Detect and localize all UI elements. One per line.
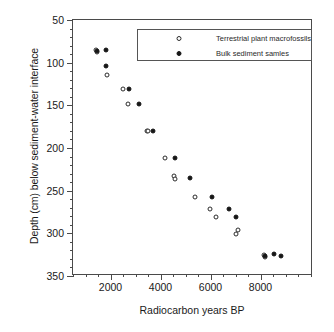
- y-tick-minor: [70, 29, 73, 30]
- legend-entry-bulk: Bulk sediment samles: [138, 46, 311, 61]
- data-point: [103, 64, 108, 69]
- data-point: [234, 232, 239, 237]
- y-tick-label: 350: [46, 270, 64, 282]
- y-tick-minor: [70, 139, 73, 140]
- data-point: [125, 102, 130, 107]
- x-tick-minor: [186, 274, 187, 277]
- data-point: [126, 87, 131, 92]
- y-tick-label: 200: [46, 142, 64, 154]
- x-tick-minor: [311, 274, 312, 277]
- x-tick-minor: [98, 274, 99, 277]
- open-circle-marker-icon: [177, 36, 182, 41]
- y-tick-minor: [70, 157, 73, 158]
- y-tick-minor: [70, 122, 73, 123]
- x-tick-minor: [173, 274, 174, 277]
- data-point: [137, 102, 142, 107]
- y-tick-major: [67, 233, 73, 234]
- x-tick-minor: [286, 274, 287, 277]
- data-point: [103, 47, 108, 52]
- x-tick-label: 8000: [249, 281, 272, 293]
- x-tick-minor: [236, 274, 237, 277]
- x-tick-label: 6000: [199, 281, 222, 293]
- y-tick-minor: [70, 131, 73, 132]
- y-axis-title: Depth (cm) below sediment-water interfac…: [28, 16, 40, 276]
- x-axis-title: Radiocarbon years BP: [72, 304, 312, 316]
- y-tick-label: 100: [46, 57, 64, 69]
- x-tick-major: [161, 274, 162, 280]
- y-tick-minor: [70, 199, 73, 200]
- x-tick-label: 2000: [99, 281, 122, 293]
- x-tick-minor: [298, 274, 299, 277]
- data-point: [95, 48, 100, 53]
- y-tick-major: [67, 20, 73, 21]
- x-tick-minor: [148, 274, 149, 277]
- data-point: [163, 156, 168, 161]
- y-tick-minor: [70, 182, 73, 183]
- y-tick-label: 300: [46, 227, 64, 239]
- x-tick-minor: [73, 274, 74, 277]
- scatter-chart-figure: Depth (cm) below sediment-water interfac…: [0, 0, 334, 332]
- y-tick-minor: [70, 88, 73, 89]
- filled-circle-marker-icon: [177, 51, 182, 56]
- y-tick-minor: [70, 250, 73, 251]
- x-tick-major: [261, 274, 262, 280]
- y-tick-minor: [70, 174, 73, 175]
- y-tick-major: [67, 191, 73, 192]
- y-tick-minor: [70, 54, 73, 55]
- y-tick-minor: [70, 114, 73, 115]
- x-tick-minor: [198, 274, 199, 277]
- y-tick-minor: [70, 46, 73, 47]
- chart-legend: Terrestrial plant macrofossils Bulk sedi…: [137, 29, 312, 61]
- data-point: [279, 254, 284, 259]
- y-tick-minor: [70, 165, 73, 166]
- x-tick-minor: [86, 274, 87, 277]
- y-tick-minor: [70, 259, 73, 260]
- data-point: [105, 72, 110, 77]
- legend-entry-label: Bulk sediment samles: [216, 49, 289, 58]
- y-tick-major: [67, 105, 73, 106]
- x-tick-major: [211, 274, 212, 280]
- x-tick-minor: [123, 274, 124, 277]
- data-point: [213, 215, 218, 220]
- data-point: [233, 215, 238, 220]
- x-tick-minor: [248, 274, 249, 277]
- data-point: [193, 194, 198, 199]
- data-point: [172, 176, 177, 181]
- x-tick-major: [111, 274, 112, 280]
- data-point: [188, 175, 193, 180]
- data-point: [262, 253, 267, 258]
- y-tick-minor: [70, 225, 73, 226]
- data-point: [207, 207, 212, 212]
- y-tick-minor: [70, 71, 73, 72]
- y-tick-minor: [70, 216, 73, 217]
- y-tick-major: [67, 63, 73, 64]
- data-point: [121, 87, 126, 92]
- y-tick-minor: [70, 97, 73, 98]
- y-tick-label: 250: [46, 185, 64, 197]
- x-tick-minor: [273, 274, 274, 277]
- y-tick-minor: [70, 37, 73, 38]
- x-tick-minor: [136, 274, 137, 277]
- x-tick-minor: [223, 274, 224, 277]
- data-point: [209, 194, 214, 199]
- y-tick-minor: [70, 242, 73, 243]
- x-tick-label: 4000: [149, 281, 172, 293]
- y-tick-label: 50: [52, 14, 64, 26]
- data-point: [271, 251, 276, 256]
- legend-entry-terrestrial: Terrestrial plant macrofossils: [138, 31, 311, 46]
- y-tick-minor: [70, 267, 73, 268]
- y-tick-minor: [70, 80, 73, 81]
- data-point: [172, 156, 177, 161]
- y-tick-label: 150: [46, 99, 64, 111]
- y-tick-major: [67, 148, 73, 149]
- data-point: [227, 207, 232, 212]
- legend-entry-label: Terrestrial plant macrofossils: [216, 34, 311, 43]
- data-point: [150, 128, 155, 133]
- y-tick-minor: [70, 208, 73, 209]
